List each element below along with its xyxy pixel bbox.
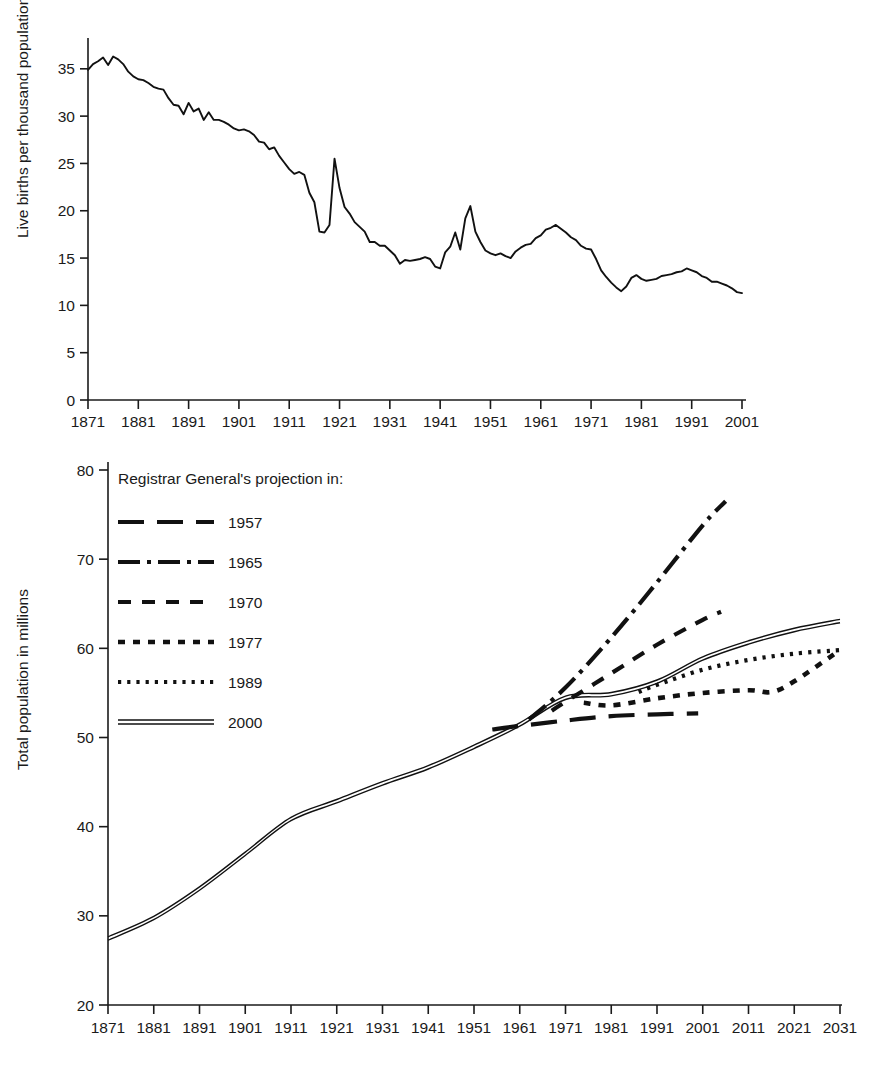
population-x-tick-label: 2021: [777, 1019, 811, 1036]
birth-rate-x-tick-label: 1901: [222, 413, 256, 430]
projection-line-1970: [552, 612, 721, 711]
legend-label-1989: 1989: [228, 674, 262, 691]
projection-line-1989: [639, 650, 840, 692]
birth-rate-y-tick-label: 20: [58, 202, 76, 219]
birth-rate-x-tick-label: 1881: [121, 413, 155, 430]
population-y-tick-label: 40: [77, 818, 95, 835]
population-y-tick-label: 80: [77, 462, 95, 479]
birth-rate-y-tick-label: 35: [58, 60, 75, 77]
birth-rate-x-tick-label: 2001: [725, 413, 759, 430]
population-x-tick-label: 2001: [686, 1019, 720, 1036]
population-y-ticks: 80706050403020: [77, 462, 108, 1014]
birth-rate-y-ticks: 35302520151050: [58, 60, 88, 408]
birth-rate-x-tick-label: 1991: [674, 413, 708, 430]
birth-rate-y-tick-label: 5: [66, 344, 75, 361]
population-x-tick-label: 1891: [182, 1019, 216, 1036]
birth-rate-y-axis-title: Live births per thousand population: [14, 0, 31, 238]
birth-rate-x-tick-label: 1951: [473, 413, 507, 430]
population-y-axis-title: Total population in millions: [14, 589, 31, 770]
birth-rate-x-tick-label: 1941: [423, 413, 457, 430]
population-x-tick-label: 1881: [137, 1019, 171, 1036]
legend-label-2000: 2000: [228, 714, 263, 731]
legend-label-1970: 1970: [228, 594, 263, 611]
birth-rate-x-tick-label: 1971: [574, 413, 608, 430]
population-y-tick-label: 50: [77, 729, 95, 746]
population-actual-line: [108, 619, 840, 940]
legend-label-1965: 1965: [228, 554, 262, 571]
birth-rate-y-tick-label: 30: [58, 108, 76, 125]
population-x-tick-label: 1961: [503, 1019, 537, 1036]
population-x-ticks: 1871188118911901191119211931194119511961…: [91, 1005, 857, 1036]
birth-rate-svg: Live births per thousand population 3530…: [0, 0, 873, 440]
birth-rate-x-tick-label: 1981: [624, 413, 658, 430]
population-x-tick-label: 1951: [457, 1019, 491, 1036]
population-x-tick-label: 1991: [640, 1019, 674, 1036]
birth-rate-y-tick-label: 25: [58, 155, 75, 172]
population-y-tick-label: 70: [77, 551, 95, 568]
population-x-tick-label: 1981: [594, 1019, 628, 1036]
population-x-tick-label: 1971: [548, 1019, 582, 1036]
population-x-tick-label: 2011: [732, 1019, 765, 1036]
population-x-tick-label: 1911: [274, 1019, 307, 1036]
projection-line-1977: [584, 650, 840, 705]
population-legend: Registrar General's projection in: 19571…: [118, 470, 343, 731]
birth-rate-x-tick-label: 1871: [71, 413, 105, 430]
birth-rate-y-tick-label: 15: [58, 250, 75, 267]
population-svg: Total population in millions 80706050403…: [0, 440, 873, 1075]
legend-label-1977: 1977: [228, 634, 262, 651]
birth-rate-x-ticks: 1871188118911901191119211931194119511961…: [71, 400, 759, 430]
population-y-tick-label: 30: [77, 907, 95, 924]
birth-rate-y-tick-label: 0: [66, 392, 75, 409]
population-x-tick-label: 1871: [91, 1019, 125, 1036]
population-x-tick-label: 2031: [823, 1019, 857, 1036]
birth-rate-x-tick-label: 1891: [171, 413, 205, 430]
legend-title: Registrar General's projection in:: [118, 470, 343, 487]
birth-rate-chart: Live births per thousand population 3530…: [0, 0, 873, 440]
population-y-tick-label: 20: [77, 997, 95, 1014]
population-y-tick-label: 60: [77, 640, 95, 657]
birth-rate-x-tick-label: 1931: [373, 413, 407, 430]
birth-rate-x-tick-label: 1961: [524, 413, 558, 430]
legend-label-1957: 1957: [228, 514, 262, 531]
projection-line-1965: [529, 501, 726, 719]
population-series-group: [108, 501, 840, 940]
population-x-tick-label: 1931: [365, 1019, 399, 1036]
birth-rate-line: [88, 57, 742, 294]
birth-rate-x-tick-label: 1921: [322, 413, 356, 430]
population-x-tick-label: 1941: [411, 1019, 445, 1036]
population-chart: Total population in millions 80706050403…: [0, 440, 873, 1075]
birth-rate-x-tick-label: 1911: [273, 413, 306, 430]
legend-items: 195719651970197719892000: [118, 514, 263, 731]
population-x-tick-label: 1921: [320, 1019, 354, 1036]
figure-root: Live births per thousand population 3530…: [0, 0, 873, 1075]
population-x-tick-label: 1901: [228, 1019, 262, 1036]
birth-rate-y-tick-label: 10: [58, 297, 76, 314]
